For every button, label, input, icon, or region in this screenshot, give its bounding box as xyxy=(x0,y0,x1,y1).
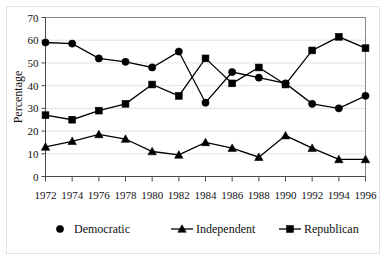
data-point-square xyxy=(335,33,342,40)
data-point-square xyxy=(202,55,209,62)
data-point-circle xyxy=(202,99,209,106)
x-tick-label: 1984 xyxy=(195,189,218,201)
data-point-circle xyxy=(229,68,236,75)
x-tick-label: 1990 xyxy=(275,189,298,201)
data-point-triangle xyxy=(308,144,316,151)
y-tick-labels: 010203040506070 xyxy=(28,12,40,183)
x-tick-label: 1996 xyxy=(355,189,378,201)
x-tick-label: 1992 xyxy=(301,189,323,201)
x-tick-labels: 1972197419761978198019821984198619881990… xyxy=(35,189,378,201)
data-series-layer xyxy=(41,33,369,162)
x-tick-label: 1972 xyxy=(35,189,57,201)
x-tick-label: 1978 xyxy=(115,189,138,201)
gridlines xyxy=(46,18,366,154)
chart-figure: 010203040506070 Percentage 1972197419761… xyxy=(0,0,388,266)
data-point-circle xyxy=(122,58,129,65)
x-tick-label: 1980 xyxy=(141,189,164,201)
x-tick-label: 1976 xyxy=(88,189,111,201)
series-independent xyxy=(41,130,369,162)
data-point-circle xyxy=(56,225,63,232)
legend-item-independent[interactable]: Independent xyxy=(171,222,256,236)
y-tick-label: 50 xyxy=(28,57,40,69)
y-tick-label: 40 xyxy=(28,80,40,92)
y-tick-label: 20 xyxy=(28,125,40,137)
data-point-square xyxy=(122,100,129,107)
data-point-circle xyxy=(309,100,316,107)
chart-legend: DemocraticIndependentRepublican xyxy=(56,222,358,236)
y-tick-label: 0 xyxy=(33,171,39,183)
y-axis-label: Percentage xyxy=(11,71,25,124)
data-point-square xyxy=(282,81,289,88)
data-point-square xyxy=(69,116,76,123)
x-axis xyxy=(46,177,366,182)
series-line xyxy=(46,42,366,108)
data-point-triangle xyxy=(281,131,289,138)
data-point-circle xyxy=(362,92,369,99)
data-point-square xyxy=(149,81,156,88)
data-point-circle xyxy=(255,74,262,81)
data-point-circle xyxy=(149,64,156,71)
data-point-square xyxy=(287,226,294,233)
data-point-square xyxy=(229,80,236,87)
x-tick-label: 1982 xyxy=(168,189,190,201)
line-chart: 010203040506070 Percentage 1972197419761… xyxy=(0,0,388,266)
data-point-circle xyxy=(175,48,182,55)
x-tick-label: 1986 xyxy=(221,189,244,201)
series-democratic xyxy=(42,39,369,112)
x-tick-label: 1988 xyxy=(248,189,271,201)
legend-label: Republican xyxy=(304,222,359,236)
y-tick-label: 60 xyxy=(28,34,40,46)
data-point-square xyxy=(175,92,182,99)
legend-item-republican[interactable]: Republican xyxy=(279,222,359,236)
data-point-square xyxy=(255,64,262,71)
legend-label: Democratic xyxy=(74,222,130,236)
data-point-square xyxy=(362,45,369,52)
x-tick-label: 1994 xyxy=(328,189,351,201)
data-point-circle xyxy=(42,39,49,46)
data-point-square xyxy=(309,47,316,54)
plot-area-border xyxy=(46,18,366,177)
data-point-circle xyxy=(335,105,342,112)
y-tick-label: 30 xyxy=(28,102,40,114)
x-tick-label: 1974 xyxy=(61,189,84,201)
legend-label: Independent xyxy=(196,222,256,236)
legend-item-democratic[interactable]: Democratic xyxy=(56,222,130,236)
data-point-circle xyxy=(95,55,102,62)
y-tick-label: 10 xyxy=(28,148,40,160)
data-point-triangle xyxy=(148,147,156,154)
data-point-square xyxy=(95,107,102,114)
y-tick-label: 70 xyxy=(28,12,40,24)
data-point-triangle xyxy=(201,138,209,145)
series-line xyxy=(46,37,366,120)
data-point-circle xyxy=(69,40,76,47)
series-republican xyxy=(42,33,369,123)
data-point-square xyxy=(42,112,49,119)
